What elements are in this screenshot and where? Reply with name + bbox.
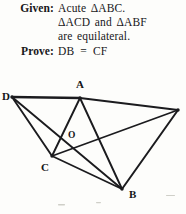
vertex-label-b: B [129,188,137,200]
given-line-3: are equilateral. [58,30,130,42]
segment-af [80,98,178,110]
segment-fb [122,110,178,189]
given-label: Given: [0,2,54,14]
scan-speck [166,195,175,196]
segment-da [12,97,80,98]
vertex-label-d: D [2,90,10,102]
scan-artifact-layer [58,195,175,205]
edge-layer [12,97,178,189]
geometry-problem-page: Given: Acute ΔABC. ΔACD and ΔABF are equ… [0,0,186,214]
diagram-canvas: DACBO [0,68,186,214]
vertex-dot-a [78,96,81,99]
geometry-diagram: DACBO [0,68,186,214]
scan-speck [58,204,65,205]
vertex-label-o: O [68,130,75,140]
prove-row: Prove: DB = CF [0,45,186,60]
vertex-label-a: A [76,78,84,90]
prove-label: Prove: [0,45,54,57]
vertex-dot-c [50,154,53,157]
vertex-dot-d [10,95,13,98]
given-row: Given: Acute ΔABC. [0,2,186,17]
segment-db [12,97,122,189]
given-line-1: Acute ΔABC. [58,2,125,14]
prove-statement-body: DB = CF [58,45,107,57]
vertex-dot-b [120,187,123,190]
vertex-label-c: C [41,161,49,173]
problem-statement: Given: Acute ΔABC. ΔACD and ΔABF are equ… [0,0,186,68]
given-line-2: ΔACD and ΔABF [58,16,147,28]
given-row-2: ΔACD and ΔABF [0,16,186,31]
vertex-dot-f [176,108,179,111]
scan-speck [96,202,101,203]
given-row-3: are equilateral. [0,30,186,45]
